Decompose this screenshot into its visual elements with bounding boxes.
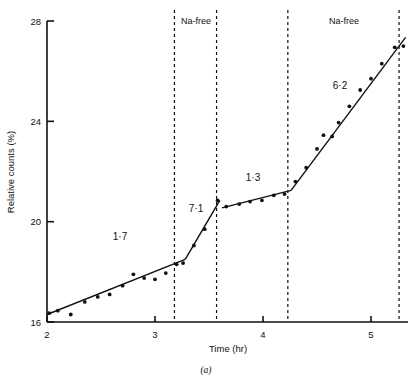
data-point [358,88,362,92]
fit-line-segment [222,190,291,208]
y-axis-title: Relative counts (%) [5,131,16,213]
x-tick-label: 3 [152,329,157,340]
x-axis-title: Time (hr) [209,343,247,354]
data-point [330,134,334,138]
slope-label-2: 7·1 [189,203,204,214]
na-free-label-1: Na-free [181,16,211,26]
data-point [216,198,220,202]
slope-label-3: 1·3 [246,172,261,183]
data-point [132,272,136,276]
data-point [96,295,100,299]
data-point [203,227,207,231]
data-point [322,133,326,137]
data-point [304,166,308,170]
x-axis-ticks: 2345 [44,316,373,340]
data-point [192,244,196,248]
data-point [248,200,252,204]
x-tick-label: 4 [260,329,265,340]
data-point [393,45,397,49]
y-tick-label: 20 [30,216,41,227]
data-point [294,180,298,184]
data-point [164,271,168,275]
data-point [224,205,228,209]
figure-panel: 16202428 2345 1·7 7·1 1·3 6·2 Na-free Na… [0,0,412,378]
slope-label-4: 6·2 [333,80,348,91]
axes [47,21,408,322]
data-point [56,309,60,313]
data-point [369,77,373,81]
data-point [337,121,341,125]
data-points-group [47,44,405,316]
data-point [315,147,319,151]
fit-lines-group [47,37,406,314]
data-point [283,192,287,196]
data-point [83,300,87,304]
data-point [272,193,276,197]
data-point [142,276,146,280]
na-free-label-2: Na-free [329,16,359,26]
chart-svg: 16202428 2345 1·7 7·1 1·3 6·2 Na-free Na… [0,0,412,378]
data-point [153,277,157,281]
y-axis-ticks: 16202428 [30,16,54,328]
slope-label-1: 1·7 [113,231,128,242]
event-lines-group [174,10,399,322]
figure-caption: (a) [200,365,211,376]
y-tick-label: 16 [30,317,41,328]
data-point [380,62,384,66]
data-point [108,293,112,297]
data-point [402,44,406,48]
data-point [348,104,352,108]
x-tick-label: 5 [368,329,373,340]
data-point [47,311,51,315]
data-point [69,313,73,317]
data-point [181,261,185,265]
x-tick-label: 2 [44,329,49,340]
y-tick-label: 28 [30,16,41,27]
fit-line-segment [291,37,405,190]
data-point [237,202,241,206]
data-point [260,198,264,202]
y-tick-label: 24 [30,116,41,127]
data-point [121,284,125,288]
fit-line-segment [47,259,185,314]
data-point [175,262,179,266]
